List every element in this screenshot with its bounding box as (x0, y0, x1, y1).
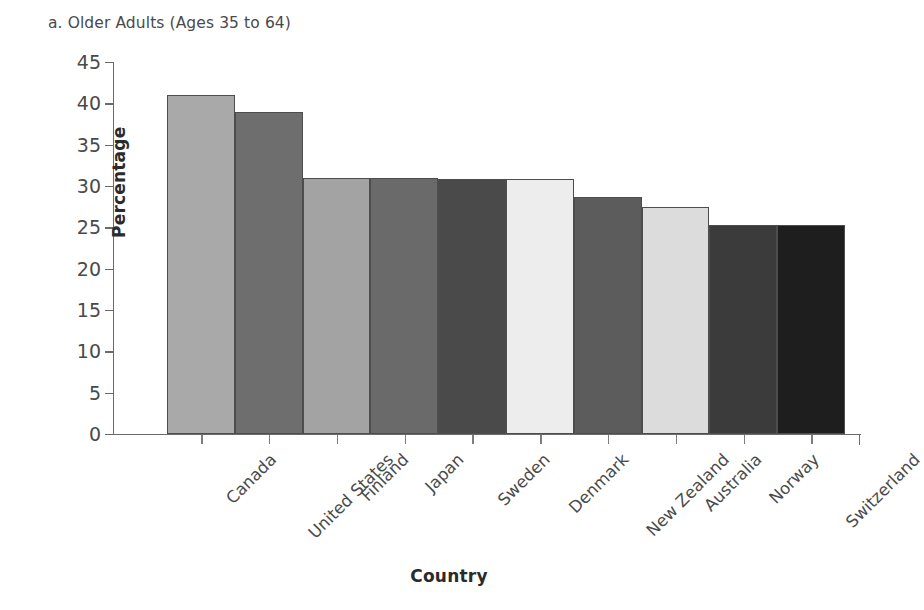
y-tick-label: 15 (77, 299, 101, 321)
x-tick-mark (472, 435, 473, 444)
bar-japan (370, 178, 438, 434)
x-tick-mark (269, 435, 270, 444)
x-label-sweden: Sweden (495, 450, 555, 510)
x-tick-mark (337, 435, 338, 444)
y-tick-mark (105, 434, 113, 435)
x-tick-mark (744, 435, 745, 444)
bar-sweden (438, 179, 506, 434)
y-tick-mark (105, 269, 113, 270)
bar-finland (303, 178, 371, 434)
x-label-japan: Japan (421, 450, 467, 496)
y-tick-label: 0 (89, 423, 101, 445)
bar-switzerland (777, 225, 845, 434)
y-tick-mark (105, 351, 113, 352)
y-tick-label: 20 (77, 258, 101, 280)
y-tick-label: 35 (77, 134, 101, 156)
y-tick-label: 30 (77, 175, 101, 197)
y-tick-mark (105, 310, 113, 311)
bar-united-states (235, 112, 303, 434)
page-title: a. Older Adults (Ages 35 to 64) (48, 14, 291, 32)
x-tick-mark (540, 435, 541, 444)
x-tick-mark (405, 435, 406, 444)
bar-denmark (506, 179, 574, 434)
bar-canada (167, 95, 235, 434)
x-tick-mark (811, 435, 812, 444)
x-label-denmark: Denmark (565, 450, 632, 517)
y-tick-label: 5 (89, 382, 101, 404)
y-tick-mark (105, 103, 113, 104)
bar-chart-plot-area: 051015202530354045 CanadaUnited StatesFi… (113, 56, 863, 440)
x-axis-end-cap (859, 434, 860, 445)
y-tick-label: 40 (77, 92, 101, 114)
x-label-switzerland: Switzerland (843, 450, 924, 531)
bar-series (114, 56, 863, 435)
y-tick-label: 45 (77, 51, 101, 73)
y-tick-label: 25 (77, 216, 101, 238)
x-label-canada: Canada (223, 450, 281, 508)
x-tick-mark (201, 435, 202, 444)
y-tick-mark (105, 393, 113, 394)
y-tick-label: 10 (77, 340, 101, 362)
y-tick-mark (105, 62, 113, 63)
x-tick-mark (676, 435, 677, 444)
bar-norway (709, 225, 777, 434)
x-axis-title: Country (0, 566, 898, 586)
x-label-norway: Norway (765, 450, 823, 508)
y-axis-title: Percentage (109, 127, 129, 238)
bar-new-zealand (574, 197, 642, 434)
x-tick-mark (608, 435, 609, 444)
bar-australia (642, 207, 710, 434)
